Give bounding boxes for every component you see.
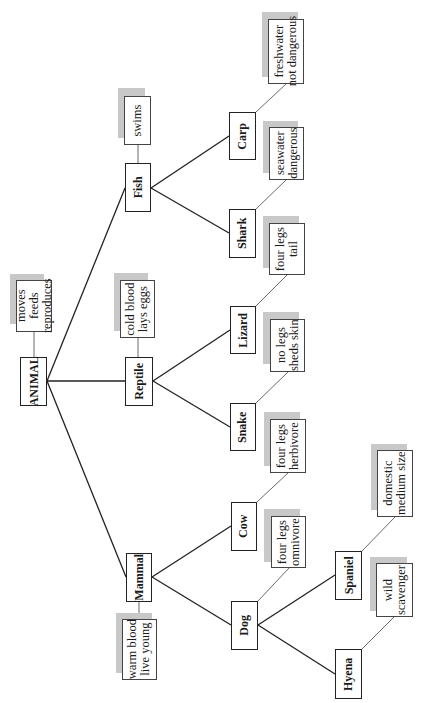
node-spaniel: Spaniel bbox=[335, 551, 362, 600]
node-label: Cow bbox=[238, 515, 251, 538]
reptile-attributes-box: cold blood lays eggs bbox=[120, 280, 155, 338]
attr-line: omnivore bbox=[289, 518, 302, 566]
snake-attributes-box: no legs sheds skin bbox=[270, 319, 305, 372]
root-attributes-box: moves feeds reproduces bbox=[16, 280, 52, 332]
hyena-attributes-box: wild scavenger bbox=[376, 563, 413, 617]
node-mammal: Mammal bbox=[126, 553, 152, 602]
node-hyena: Hyena bbox=[335, 649, 362, 699]
attr-line: seawater bbox=[273, 128, 286, 179]
node-fish: Fish bbox=[125, 163, 151, 212]
spaniel-attributes-box: domestic medium size bbox=[377, 450, 413, 517]
node-label: Hyena bbox=[342, 657, 355, 690]
mammal-attributes-box: warm blood live young bbox=[122, 619, 157, 680]
node-snake: Snake bbox=[230, 403, 256, 451]
node-label: Shark bbox=[236, 218, 249, 249]
node-carp: Carp bbox=[229, 112, 256, 160]
attr-line: live young bbox=[140, 619, 153, 679]
attr-line: no legs bbox=[274, 320, 287, 372]
shark-attributes-box: seawater dangerous bbox=[269, 127, 304, 180]
node-label: Fish bbox=[132, 176, 145, 198]
attr-line: swims bbox=[131, 105, 144, 137]
attr-line: four legs bbox=[274, 227, 287, 271]
node-dog: Dog bbox=[231, 601, 258, 650]
dog-attributes-box: four legs omnivore bbox=[271, 516, 306, 568]
node-label: Dog bbox=[238, 615, 251, 636]
attr-line: cold blood bbox=[124, 282, 137, 335]
lizard-attributes-box: four legs tail bbox=[269, 223, 305, 275]
attr-line: not dangerous bbox=[286, 16, 299, 86]
node-label: Snake bbox=[237, 411, 250, 442]
attr-line: tail bbox=[287, 227, 300, 271]
attr-line: medium size bbox=[395, 452, 408, 516]
node-reptile: Reptile bbox=[125, 357, 153, 406]
fish-attributes-box: swims bbox=[124, 96, 151, 145]
node-shark: Shark bbox=[229, 209, 256, 258]
attr-line: reproduces bbox=[41, 279, 54, 334]
node-label: Spaniel bbox=[342, 556, 355, 594]
attr-line: lays eggs bbox=[138, 282, 151, 335]
attr-line: feeds bbox=[27, 279, 40, 334]
attr-line: four legs bbox=[275, 518, 288, 566]
attr-line: moves bbox=[14, 279, 27, 334]
attr-line: dangerous bbox=[287, 128, 300, 179]
node-label: Lizard bbox=[237, 313, 250, 348]
attr-line: sheds skin bbox=[288, 320, 301, 372]
node-label: Mammal bbox=[133, 554, 146, 601]
tree-edges bbox=[0, 0, 430, 703]
attr-line: freshwater bbox=[273, 16, 286, 86]
node-label: Carp bbox=[236, 123, 249, 150]
node-lizard: Lizard bbox=[230, 306, 256, 354]
node-label: ANIMAL bbox=[27, 357, 40, 407]
node-label: Reptile bbox=[133, 363, 146, 400]
attr-line: wild bbox=[381, 565, 394, 615]
cow-attributes-box: four legs herbivore bbox=[270, 419, 306, 473]
carp-attributes-box: freshwater not dangerous bbox=[268, 19, 304, 84]
node-cow: Cow bbox=[231, 502, 257, 551]
attr-line: scavenger bbox=[395, 565, 408, 615]
node-animal: ANIMAL bbox=[20, 357, 47, 406]
attr-line: herbivore bbox=[288, 422, 301, 470]
